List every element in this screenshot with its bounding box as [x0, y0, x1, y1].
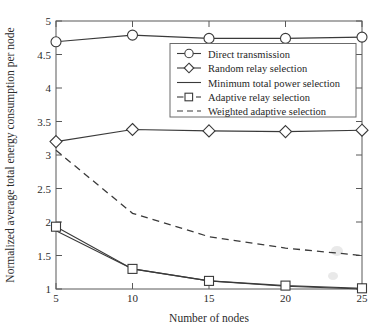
y-tick-label-5: 3.5 [37, 116, 51, 128]
x-tick-label-0: 5 [53, 292, 59, 304]
y-tick-label-4: 3 [46, 149, 52, 161]
marker-diamond [50, 136, 62, 148]
marker-square [52, 222, 61, 231]
y-tick-label-3: 2.5 [37, 183, 51, 195]
artifact-smudge-lower [328, 272, 338, 280]
y-tick-label-0: 1 [46, 283, 52, 295]
marker-square [281, 281, 290, 290]
markers-adaptive-relay-selection [52, 222, 367, 293]
marker-diamond [280, 126, 292, 138]
x-tick-label-4: 25 [357, 292, 369, 304]
marker-square [128, 264, 137, 273]
artifact-smudge-upper [331, 246, 343, 256]
x-tick-label-3: 20 [280, 292, 292, 304]
marker-diamond [127, 124, 139, 136]
y-axis-title: Normalized average total energy consumpt… [4, 27, 17, 282]
x-axis-title: Number of nodes [169, 312, 249, 324]
x-tick-label-1: 10 [127, 292, 139, 304]
marker-diamond [203, 125, 215, 137]
y-tick-label-8: 5 [46, 15, 52, 27]
marker-diamond [356, 124, 368, 136]
y-tick-label-6: 4 [46, 82, 52, 94]
legend-marker-circle-icon [185, 49, 193, 57]
legend-label-2: Minimum total power selection [208, 78, 341, 89]
x-tick-label-2: 15 [204, 292, 216, 304]
legend[interactable]: Direct transmission Random relay selecti… [170, 44, 356, 118]
y-axis-tick-labels: 1 1.5 2 2.5 3 3.5 4 4.5 5 [37, 15, 51, 295]
legend-label-4: Weighted adaptive selection [208, 106, 327, 117]
line-chart-svg: 1 1.5 2 2.5 3 3.5 4 4.5 5 [0, 0, 382, 333]
figure-container: 1 1.5 2 2.5 3 3.5 4 4.5 5 [0, 0, 382, 333]
legend-label-1: Random relay selection [208, 63, 308, 74]
legend-label-3: Adaptive relay selection [208, 92, 311, 103]
marker-square [358, 284, 367, 293]
legend-marker-square-icon [185, 93, 193, 101]
chart-page: 1 1.5 2 2.5 3 3.5 4 4.5 5 [0, 0, 382, 333]
y-tick-label-1: 1.5 [37, 250, 51, 262]
marker-square [205, 276, 214, 285]
legend-label-0: Direct transmission [208, 49, 291, 60]
marker-circle [281, 33, 291, 43]
marker-circle [51, 37, 61, 47]
marker-circle [357, 32, 367, 42]
y-tick-label-2: 2 [46, 216, 52, 228]
x-axis-tick-labels: 5 10 15 20 25 [53, 292, 368, 304]
marker-circle [204, 33, 214, 43]
marker-circle [128, 30, 138, 40]
y-tick-label-7: 4.5 [37, 49, 51, 61]
series-line-weighted-adaptive-selection [56, 150, 362, 255]
